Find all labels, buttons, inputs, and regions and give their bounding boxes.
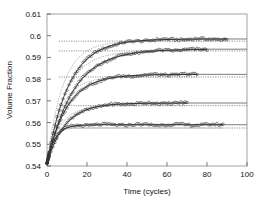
- x-tick-label: 100: [240, 170, 254, 179]
- y-tick-label: 0.56: [25, 119, 41, 128]
- chart-figure: 0.540.550.560.570.580.590.60.61 02040608…: [0, 0, 257, 201]
- y-tick-label: 0.58: [25, 75, 41, 84]
- x-tick-label: 60: [163, 170, 172, 179]
- x-tick-label: 20: [83, 170, 92, 179]
- y-tick-label: 0.6: [30, 32, 42, 41]
- y-tick-label: 0.61: [25, 10, 41, 19]
- volume-fraction-chart: 0.540.550.560.570.580.590.60.61 02040608…: [0, 0, 257, 201]
- x-tick-label: 40: [123, 170, 132, 179]
- y-tick-label: 0.57: [25, 97, 41, 106]
- y-axis-title: Volume Fraction: [5, 61, 14, 119]
- x-tick-label: 0: [45, 170, 50, 179]
- y-tick-label: 0.55: [25, 140, 41, 149]
- x-tick-label: 80: [203, 170, 212, 179]
- x-axis-title: Time (cycles): [123, 187, 171, 196]
- y-tick-label: 0.59: [25, 53, 41, 62]
- y-tick-label: 0.54: [25, 162, 41, 171]
